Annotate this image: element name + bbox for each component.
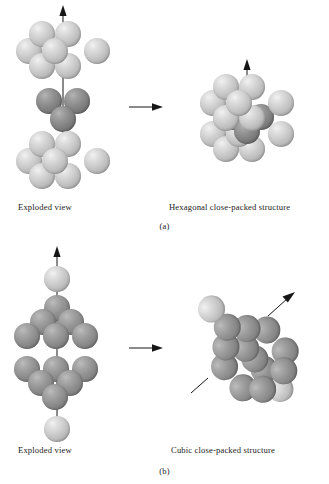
- sphere-light: [268, 121, 294, 147]
- panel-a-label: (a): [0, 221, 329, 231]
- panel-a-left-caption: Exploded view: [18, 202, 72, 212]
- sphere-light: [226, 90, 252, 116]
- panel-b-left-caption: Exploded view: [18, 445, 72, 455]
- figure-root: Exploded view Hexagonal close-packed str…: [0, 0, 329, 484]
- panel-a-right-caption: Hexagonal close-packed structure: [169, 202, 290, 212]
- panel-b: Exploded view Cubic close-packed structu…: [0, 242, 329, 484]
- panel-a-stage: Exploded view Hexagonal close-packed str…: [0, 0, 329, 242]
- panel-b-label: (b): [0, 466, 329, 476]
- sphere-light: [268, 90, 294, 116]
- panel-a: Exploded view Hexagonal close-packed str…: [0, 0, 329, 242]
- panel-b-right-caption: Cubic close-packed structure: [171, 445, 275, 455]
- panel-b-stage: Exploded view Cubic close-packed structu…: [0, 242, 329, 484]
